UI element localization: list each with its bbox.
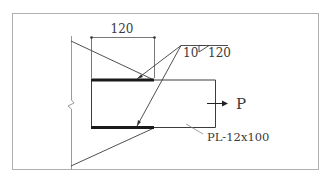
- load-label: P: [236, 95, 246, 113]
- weld-detail-drawing: 120 10 120 P PL-12x100: [0, 0, 328, 192]
- dimension-tick-right: [153, 36, 156, 39]
- attached-plate: [92, 80, 216, 128]
- dimension-line: [92, 37, 155, 78]
- support-wall-line: [68, 36, 74, 170]
- plate-label-leader: [186, 124, 203, 134]
- dimension-label: 120: [111, 22, 134, 36]
- break-symbol: [68, 100, 74, 109]
- weld-top: [91, 79, 154, 82]
- load-arrow-icon: [222, 101, 228, 107]
- weld-size-label: 10: [183, 46, 198, 60]
- weld-length-label: 120: [208, 46, 231, 60]
- drawing-frame: [13, 14, 319, 170]
- dimension-tick-left: [90, 36, 93, 39]
- leader-arrowhead-bottom: [137, 120, 141, 126]
- weld-bottom: [91, 126, 154, 129]
- gusset-plate-outline: [71, 41, 154, 166]
- plate-label: PL-12x100: [207, 130, 269, 144]
